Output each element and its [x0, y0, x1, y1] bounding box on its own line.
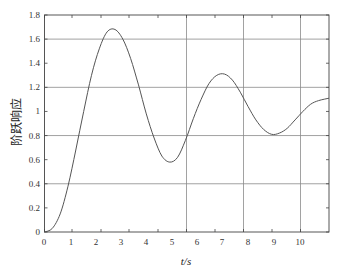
x-tick-label: 4	[144, 237, 149, 247]
grid-lines	[45, 15, 330, 232]
x-tick-label: 10	[296, 237, 306, 247]
x-tick-label: 9	[272, 237, 277, 247]
step-response-chart: 00.20.40.60.811.21.41.61.8 012345678910 …	[0, 0, 337, 272]
y-axis-ticks: 00.20.40.60.811.21.41.61.8	[29, 10, 329, 237]
x-tick-label: 2	[94, 237, 99, 247]
y-tick-label: 0.2	[29, 203, 40, 213]
y-tick-label: 0.4	[29, 179, 41, 189]
x-axis-label: t/s	[181, 255, 191, 267]
y-tick-label: 0.6	[29, 155, 41, 165]
x-tick-label: 3	[119, 237, 124, 247]
y-tick-label: 1.6	[29, 34, 41, 44]
x-tick-label: 8	[246, 237, 251, 247]
y-axis-label: 阶跃响应	[9, 98, 24, 146]
x-tick-label: 1	[69, 237, 74, 247]
y-tick-label: 1	[36, 106, 41, 116]
x-tick-label: 6	[195, 237, 200, 247]
y-tick-label: 0	[36, 227, 41, 237]
x-tick-label: 0	[42, 237, 47, 247]
y-tick-label: 0.8	[29, 131, 41, 141]
x-tick-label: 5	[170, 237, 175, 247]
x-tick-label: 7	[220, 237, 225, 247]
y-tick-label: 1.4	[29, 58, 41, 68]
y-tick-label: 1.8	[29, 10, 41, 20]
y-tick-label: 1.2	[29, 82, 40, 92]
